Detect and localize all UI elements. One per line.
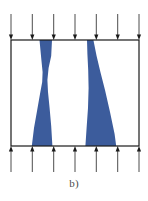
caption-layer: b) <box>0 173 148 191</box>
figure-background <box>0 0 148 201</box>
compression-specimen-diagram <box>0 0 148 201</box>
figure-container: b) <box>0 0 148 201</box>
figure-caption-label: b) <box>69 176 79 190</box>
